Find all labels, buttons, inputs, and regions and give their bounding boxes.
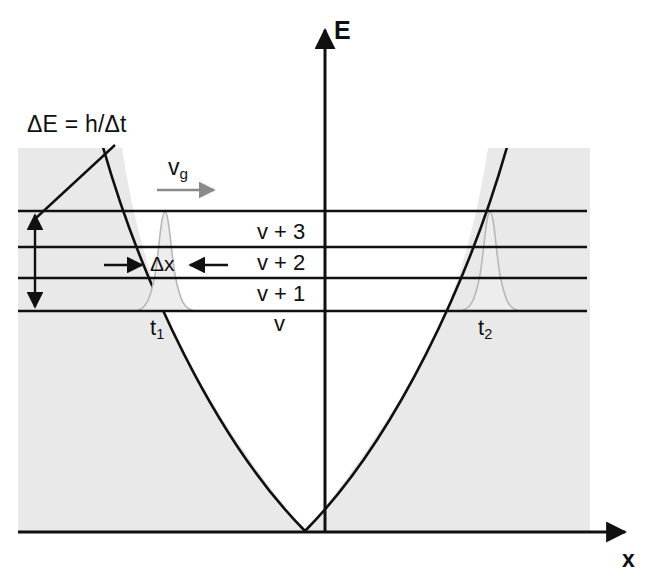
energy-level-label-v-plus-3: v + 3 (257, 221, 305, 243)
position-uncertainty-label: Δx (150, 253, 175, 274)
time-label-t1-subscript: 1 (156, 326, 164, 342)
time-label-t1: t1 (150, 317, 164, 339)
position-axis-label: x (622, 548, 635, 571)
group-velocity-symbol: v (168, 154, 180, 180)
classically-forbidden-shading (18, 148, 590, 532)
diagram-canvas (0, 0, 656, 581)
energy-axis-label: E (334, 18, 351, 43)
group-velocity-subscript: g (180, 165, 188, 182)
time-label-t2-subscript: 2 (484, 326, 492, 342)
energy-uncertainty-label: ΔE = h/Δt (27, 113, 127, 136)
group-velocity-label: vg (168, 156, 188, 179)
oscillator-diagram: E x ΔE = h/Δt vg Δx v + 3 v + 2 v + 1 v … (0, 0, 656, 581)
time-label-t2: t2 (478, 317, 492, 339)
energy-level-label-v-plus-1: v + 1 (257, 283, 305, 305)
energy-level-label-v: v (274, 313, 285, 335)
energy-level-label-v-plus-2: v + 2 (257, 252, 305, 274)
